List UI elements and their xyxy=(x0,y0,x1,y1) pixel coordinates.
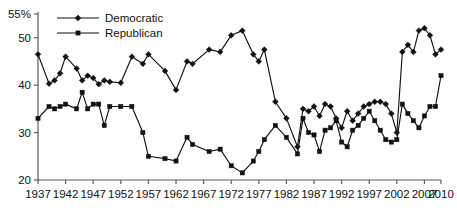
legend-item-republican[interactable]: Republican xyxy=(57,27,163,39)
data-point xyxy=(102,123,106,127)
data-point xyxy=(383,101,389,107)
data-point xyxy=(52,107,56,111)
x-tick-label: 1982 xyxy=(274,188,300,200)
data-point xyxy=(366,101,372,107)
data-point xyxy=(273,123,277,127)
data-point xyxy=(295,144,301,150)
data-point xyxy=(141,130,145,134)
legend-marker-diamond-icon xyxy=(75,15,81,21)
data-point xyxy=(389,140,393,144)
data-point xyxy=(140,61,146,67)
data-point xyxy=(372,99,378,105)
data-point xyxy=(378,128,382,132)
data-point xyxy=(439,74,443,78)
data-point xyxy=(190,142,194,146)
series-line xyxy=(38,76,441,173)
data-point xyxy=(411,119,415,123)
x-tick-label: 2002 xyxy=(384,188,410,200)
data-point xyxy=(295,152,299,156)
data-point xyxy=(384,138,388,142)
series-republican xyxy=(36,74,443,175)
legend-label: Republican xyxy=(105,27,163,39)
data-point xyxy=(91,102,95,106)
data-point xyxy=(300,106,306,112)
data-point xyxy=(428,104,432,108)
data-point xyxy=(328,104,334,110)
x-axis: 1937194219471952195719621967197219771982… xyxy=(25,180,454,200)
data-point xyxy=(416,28,422,34)
data-point xyxy=(317,149,321,153)
x-axis-tick-labels: 1937194219471952195719621967197219771982… xyxy=(25,188,454,200)
data-point xyxy=(433,104,437,108)
y-axis-tick-labels: 2030405055% xyxy=(8,8,31,186)
data-point xyxy=(174,159,178,163)
data-point xyxy=(417,126,421,130)
data-point xyxy=(262,138,266,142)
x-tick-label: 1987 xyxy=(301,188,327,200)
x-tick-label: 1962 xyxy=(163,188,189,200)
data-point xyxy=(58,104,62,108)
x-tick-label: 1997 xyxy=(356,188,382,200)
data-point xyxy=(339,125,345,131)
data-point xyxy=(97,102,101,106)
data-point xyxy=(36,116,40,120)
data-point xyxy=(400,102,404,106)
data-point xyxy=(173,87,179,93)
chart-legend: DemocraticRepublican xyxy=(57,12,163,39)
data-point xyxy=(240,171,244,175)
legend-item-democratic[interactable]: Democratic xyxy=(57,12,163,24)
data-point xyxy=(306,130,310,134)
data-point xyxy=(47,104,51,108)
x-tick-label: 1957 xyxy=(136,188,162,200)
data-point xyxy=(344,108,350,114)
data-point xyxy=(80,90,84,94)
data-point xyxy=(322,101,328,107)
data-point xyxy=(46,81,52,87)
x-axis-ticks xyxy=(38,180,441,184)
data-point xyxy=(351,128,355,132)
data-point xyxy=(377,99,383,105)
data-point xyxy=(129,54,135,60)
data-point xyxy=(388,111,394,117)
data-point xyxy=(373,119,377,123)
data-point xyxy=(406,112,410,116)
data-point xyxy=(64,102,68,106)
x-tick-label: 1972 xyxy=(218,188,244,200)
data-point xyxy=(394,130,400,136)
data-point xyxy=(422,114,426,118)
x-tick-label: 2010 xyxy=(428,188,454,200)
data-point xyxy=(257,149,261,153)
x-tick-label: 1947 xyxy=(80,188,106,200)
y-tick-label: 20 xyxy=(18,174,31,186)
data-point xyxy=(301,116,305,120)
x-tick-label: 1977 xyxy=(246,188,272,200)
x-tick-label: 1967 xyxy=(191,188,217,200)
data-point xyxy=(118,80,124,86)
legend-label: Democratic xyxy=(105,12,163,24)
data-point xyxy=(261,47,267,53)
data-point xyxy=(119,104,123,108)
data-point xyxy=(345,145,349,149)
x-tick-label: 1942 xyxy=(53,188,79,200)
data-point xyxy=(218,147,222,151)
data-point xyxy=(163,157,167,161)
plot-series-group xyxy=(35,25,444,175)
x-tick-label: 1952 xyxy=(108,188,134,200)
data-point xyxy=(367,109,371,113)
data-point xyxy=(395,138,399,142)
party-identification-line-chart: 2030405055% 1937194219471952195719621967… xyxy=(0,0,457,215)
y-tick-label: 30 xyxy=(18,127,31,139)
data-point xyxy=(146,154,150,158)
data-point xyxy=(130,104,134,108)
chart-canvas: 2030405055% 1937194219471952195719621967… xyxy=(0,0,457,215)
y-tick-label: 50 xyxy=(18,32,31,44)
data-point xyxy=(229,164,233,168)
data-point xyxy=(184,59,190,65)
legend-marker-square-icon xyxy=(76,31,80,35)
data-point xyxy=(185,135,189,139)
data-point xyxy=(107,79,113,85)
data-point xyxy=(356,123,360,127)
x-tick-label: 1937 xyxy=(25,188,51,200)
data-point xyxy=(284,135,288,139)
data-point xyxy=(251,159,255,163)
